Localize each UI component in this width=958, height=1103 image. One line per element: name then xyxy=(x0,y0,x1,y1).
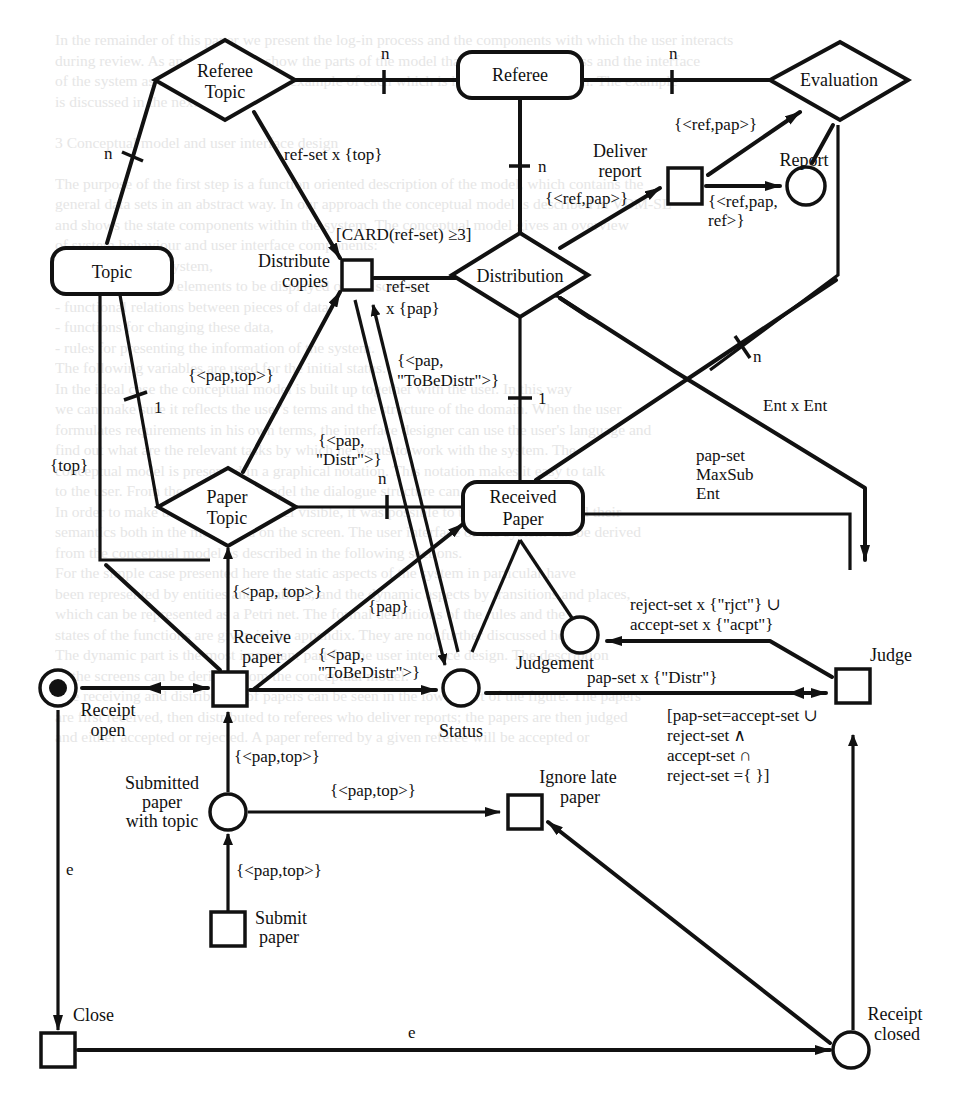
submitted-paper-label-2: paper xyxy=(142,792,182,812)
ignore-late-paper-label-2: paper xyxy=(560,787,600,807)
received-paper-label-1: Received xyxy=(490,487,557,507)
arc-label-guard: reject-set ={ }] xyxy=(667,766,769,785)
cardinality-n: n xyxy=(753,347,762,366)
arc-label: ref-set xyxy=(386,277,430,296)
arc-label: {<pap, xyxy=(318,431,365,450)
deliver-report-label-1: Deliver xyxy=(593,141,647,161)
submit-paper-label-1: Submit xyxy=(255,908,307,928)
arc-label: {<pap, top>} xyxy=(232,582,322,601)
arc-label: {<pap, xyxy=(318,645,365,664)
entity-topic[interactable]: Topic xyxy=(52,248,172,294)
arc-label: {<ref,pap>} xyxy=(674,115,757,134)
arrowhead xyxy=(789,687,804,699)
arc-label: {<pap,top>} xyxy=(330,781,416,800)
arc-label: x {pap} xyxy=(386,299,440,318)
cardinality-1: 1 xyxy=(538,389,547,408)
transition-receive-paper[interactable]: Receive paper xyxy=(213,627,291,706)
submit-paper-label-2: paper xyxy=(259,927,299,947)
arc-label: "Distr">} xyxy=(316,450,382,469)
judgement-label: Judgement xyxy=(516,653,594,673)
arc-label: {<pap,top>} xyxy=(236,861,322,880)
arc-label-guard: [pap-set=accept-set ∪ xyxy=(667,706,818,725)
transition-ignore-late-paper[interactable]: Ignore late paper xyxy=(508,767,617,829)
referee-label: Referee xyxy=(492,65,548,85)
transition-close[interactable]: Close xyxy=(41,1005,114,1067)
relation-paper-topic[interactable]: Paper Topic xyxy=(158,468,296,546)
arc-label: {<ref,pap, xyxy=(708,192,778,211)
deliver-report-label-2: report xyxy=(599,161,642,181)
transition-distribute-copies[interactable]: Distribute copies xyxy=(258,251,372,291)
report-label: Report xyxy=(780,150,829,170)
cardinality-1: 1 xyxy=(154,398,163,417)
receipt-closed-label-2: closed xyxy=(874,1024,920,1044)
place-judgement[interactable]: Judgement xyxy=(516,617,598,673)
arc-label: ref>} xyxy=(708,211,745,230)
arc-label: {<pap,top>} xyxy=(234,747,320,766)
place-receipt-open[interactable]: Receipt open xyxy=(40,670,135,740)
edge-distribution-judge xyxy=(560,298,865,560)
arc-label: {top} xyxy=(50,456,88,475)
receive-paper-label-1: Receive xyxy=(233,627,291,647)
arc-label: "ToBeDistr">} xyxy=(397,371,499,390)
edge-receivedpaper-judge xyxy=(585,514,850,570)
transition-judge[interactable]: Judge xyxy=(836,645,912,703)
arc-label: {pap} xyxy=(368,597,409,616)
edge-topic-papertopic xyxy=(120,295,158,508)
cardinality-n: n xyxy=(104,144,113,163)
arc-label: {<pap, xyxy=(397,351,444,370)
arc-label: e xyxy=(66,860,74,879)
judge-label: Judge xyxy=(870,645,912,665)
evaluation-label: Evaluation xyxy=(800,70,878,90)
entity-received-paper[interactable]: Received Paper xyxy=(463,482,583,534)
submitted-paper-label-3: with topic xyxy=(126,811,199,831)
cardinality-n: n xyxy=(381,44,390,63)
arc-label-guard: [CARD(ref-set) ≥3] xyxy=(336,225,471,244)
place-receipt-closed[interactable]: Receipt closed xyxy=(833,1004,922,1068)
close-label: Close xyxy=(73,1005,114,1025)
cardinality-n: n xyxy=(378,469,387,488)
topic-label: Topic xyxy=(92,262,133,282)
referee-topic-label-2: Topic xyxy=(205,82,246,102)
edge-refereetopic-distribute xyxy=(254,112,340,258)
arc-label: e xyxy=(408,1023,416,1042)
entity-referee[interactable]: Referee xyxy=(458,52,582,98)
status-label: Status xyxy=(439,721,483,741)
distribute-copies-label-2: copies xyxy=(282,271,328,291)
arc-label-guard: reject-set ∧ xyxy=(667,726,746,745)
arc-label: MaxSub xyxy=(696,465,754,484)
arc-label-guard: accept-set ∩ xyxy=(667,746,751,765)
referee-topic-label-1: Referee xyxy=(197,61,253,81)
edge-topic-diagonal xyxy=(106,565,220,670)
arc-label: reject-set x {"rjct"} ∪ xyxy=(630,595,781,614)
relation-evaluation[interactable]: Evaluation xyxy=(770,42,908,120)
arc-label: {<pap,top>} xyxy=(188,366,274,385)
relation-referee-topic[interactable]: Referee Topic xyxy=(155,40,295,120)
submitted-paper-label-1: Submitted xyxy=(125,773,199,793)
edge-refereetopic-topic xyxy=(107,83,155,243)
cardinality-n: n xyxy=(669,44,678,63)
receipt-open-label-2: open xyxy=(91,720,126,740)
receipt-closed-label-1: Receipt xyxy=(868,1004,923,1024)
arc-label: pap-set xyxy=(696,446,745,465)
arc-label: Ent x Ent xyxy=(763,396,827,415)
received-paper-label-2: Paper xyxy=(503,509,544,529)
edge-distribution-arrow xyxy=(560,298,590,318)
edge-receiptclosed-ignore xyxy=(548,822,830,1043)
receipt-open-label-1: Receipt xyxy=(81,700,136,720)
transition-submit-paper[interactable]: Submit paper xyxy=(211,908,307,947)
cardinality-labels: n n n n 1 1 n n xyxy=(104,44,762,488)
arc-label: pap-set x {"Distr"} xyxy=(587,668,717,687)
nodes: Referee Topic Referee Evaluation Topic D… xyxy=(40,40,922,1068)
ignore-late-paper-label-1: Ignore late xyxy=(539,767,616,787)
cardinality-tick xyxy=(124,392,147,400)
place-report[interactable]: Report xyxy=(780,150,829,205)
distribution-label: Distribution xyxy=(476,266,563,286)
token xyxy=(49,679,67,697)
distribute-copies-label-1: Distribute xyxy=(258,251,330,271)
paper-topic-label-1: Paper xyxy=(207,487,248,507)
cardinality-n: n xyxy=(538,157,547,176)
arc-label: ref-set x {top} xyxy=(284,145,382,164)
edge-receivedpaper-status xyxy=(472,540,520,652)
place-status[interactable]: Status xyxy=(439,670,483,741)
edge-receivedpaper-judgement xyxy=(520,540,572,618)
